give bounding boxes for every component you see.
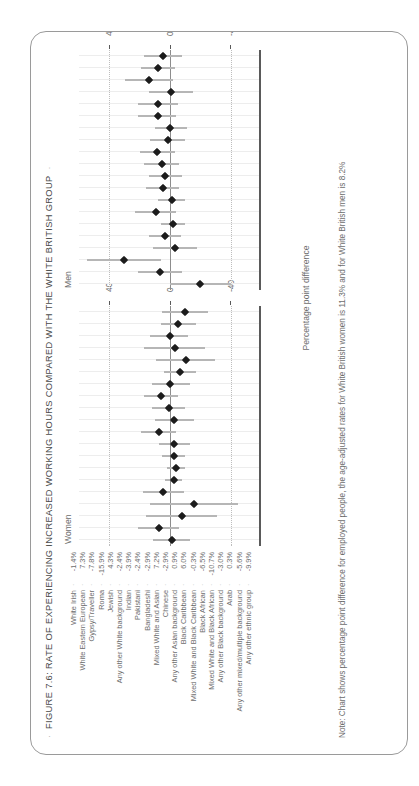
value-label: -7.8% (87, 552, 96, 571)
data-point (161, 232, 169, 240)
category-label: Any other mixed/multiple background (235, 590, 244, 712)
label-value-separator-icon: · (87, 584, 96, 586)
category-label: Indian (124, 590, 133, 610)
data-point (156, 268, 164, 276)
label-value-separator-icon: · (235, 584, 244, 586)
value-label-column: ·-1.4%·7.3%·-7.8%·-15.9%·4.3%·-2.4%·-3.9… (65, 552, 280, 586)
category-label: Mixed White and Black African (207, 590, 216, 690)
category-label: Arab (225, 590, 234, 606)
category-label: White Irish (69, 590, 78, 625)
value-label: -2.9% (143, 552, 152, 571)
title-trail-bullet-icon: · (45, 166, 54, 169)
value-label: -0.3% (189, 552, 198, 571)
data-point (170, 344, 178, 352)
figure-title-row: · FIGURE 7.6: RATE OF EXPERIENCING INCRE… (41, 48, 57, 738)
data-point (155, 524, 163, 532)
category-label: Mixed White and Asian (152, 590, 161, 665)
data-point (161, 172, 169, 180)
label-value-separator-icon: · (216, 584, 225, 586)
label-value-separator-icon: · (161, 584, 170, 586)
value-label: 0.3% (225, 552, 234, 569)
reference-line (109, 50, 110, 290)
zero-line (170, 50, 171, 290)
value-axis-line (259, 306, 261, 546)
value-label: -15.9% (97, 552, 106, 575)
data-point (178, 512, 186, 520)
label-value-separator-icon: · (244, 584, 253, 586)
axis-tick (170, 301, 171, 305)
panel-women-inner: -40040 (79, 306, 261, 546)
data-point (145, 76, 153, 84)
axis-tick (230, 301, 231, 305)
data-point (153, 112, 161, 120)
value-label: -9.9% (244, 552, 253, 571)
panel-men-title: Men (63, 271, 73, 288)
category-label-column: White IrishWhite Eastern EuropeanGypsy/T… (65, 590, 280, 738)
label-value-separator-icon: · (133, 584, 142, 586)
value-label: 0.9% (170, 552, 179, 569)
data-point (159, 184, 167, 192)
figure-note: Note: Chart shows percentage point diffe… (337, 78, 349, 738)
category-label: Any other Asian background (170, 590, 179, 682)
value-label: 7.3% (78, 552, 87, 569)
data-point (119, 256, 127, 264)
page-title: FIGURE 7.6: RATE OF EXPERIENCING INCREAS… (44, 175, 54, 729)
data-point (158, 160, 166, 168)
value-label: 6.0% (179, 552, 188, 569)
zero-line (170, 306, 171, 546)
label-value-separator-icon: · (189, 584, 198, 586)
title-lead-bullet-icon: · (45, 735, 54, 738)
value-axis-line (259, 50, 261, 290)
data-point (174, 320, 182, 328)
category-label: Any other White background (115, 590, 124, 683)
panel-men-inner: -40040 (79, 50, 261, 290)
category-label: Gypsy/Traveller (87, 590, 96, 641)
category-label: Black African (198, 590, 207, 633)
chart-plot-area: White IrishWhite Eastern EuropeanGypsy/T… (65, 48, 315, 738)
data-point (167, 196, 175, 204)
data-point (159, 52, 167, 60)
axis-tick (170, 45, 171, 49)
axis-tick (109, 301, 110, 305)
value-label: -3.0% (216, 552, 225, 571)
axis-tick-label: 40 (104, 31, 114, 36)
panel-women-title: Women (63, 515, 73, 544)
panel-women: Women -40040 (65, 306, 280, 546)
data-point (190, 500, 198, 508)
data-point (196, 280, 204, 288)
data-point (154, 100, 162, 108)
data-point (166, 380, 174, 388)
data-point (167, 88, 175, 96)
value-label: -2.4% (115, 552, 124, 571)
value-label: -3.9% (124, 552, 133, 571)
figure-card: · FIGURE 7.6: RATE OF EXPERIENCING INCRE… (30, 31, 408, 755)
category-label: Pakistani (133, 590, 142, 620)
data-point (164, 404, 172, 412)
data-point (166, 124, 174, 132)
label-value-separator-icon: · (170, 584, 179, 586)
panel-men: Men -40040 (65, 50, 280, 290)
axis-tick (109, 45, 110, 49)
axis-tick-label: 0 (165, 31, 175, 36)
label-value-separator-icon: · (115, 584, 124, 586)
category-label: Bangladeshi (143, 590, 152, 631)
data-point (176, 368, 184, 376)
category-label: Roma (97, 590, 106, 610)
label-value-separator-icon: · (78, 584, 87, 586)
data-point (172, 464, 180, 472)
axis-tick (230, 45, 231, 49)
value-label: -2.9% (161, 552, 170, 571)
label-value-separator-icon: · (179, 584, 188, 586)
data-point (165, 332, 173, 340)
data-point (170, 440, 178, 448)
label-value-separator-icon: · (198, 584, 207, 586)
data-point (153, 148, 161, 156)
rotated-figure-stage: · FIGURE 7.6: RATE OF EXPERIENCING INCRE… (31, 32, 407, 754)
label-value-separator-icon: · (124, 584, 133, 586)
label-value-separator-icon: · (106, 584, 115, 586)
category-label: Chinese (161, 590, 170, 617)
data-point (151, 208, 159, 216)
label-value-separator-icon: · (225, 584, 234, 586)
value-label: -10.7% (207, 552, 216, 575)
category-label: Black Caribbean (179, 590, 188, 644)
